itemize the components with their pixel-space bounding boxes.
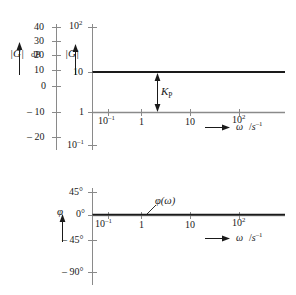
magnitude-log-axis: [88, 24, 97, 150]
db-axis: [52, 24, 61, 150]
phase-tick-minus-90: – 90°: [62, 267, 84, 277]
magnitude-x-tick-10: 10: [185, 117, 195, 127]
phase-x-tick-1: 1: [139, 220, 144, 230]
phase-curve-label: φ(ω): [155, 196, 175, 207]
kp-measurement-arrow: [155, 73, 161, 112]
phase-tick-minus-45: – 45°: [62, 235, 84, 245]
db-tick-10: 10: [34, 65, 44, 75]
phase-x-axis-unit: /s–1: [249, 233, 262, 243]
phase-x-tick-10: 10: [185, 220, 195, 230]
db-tick-0: 0: [41, 81, 46, 91]
db-tick-40: 40: [34, 22, 44, 32]
phase-y-axis: [88, 188, 97, 285]
magnitude-tick-10: 10: [73, 67, 83, 77]
db-tick-minus-10: – 10: [27, 107, 45, 117]
db-tick-30: 30: [34, 36, 44, 46]
magnitude-x-axis-arrow: [205, 125, 230, 131]
magnitude-axis-label: |G|: [65, 48, 79, 59]
magnitude-x-axis-variable: ω: [236, 122, 243, 132]
phase-x-tick-100: 102: [232, 218, 245, 228]
magnitude-x-tick-1: 1: [139, 117, 144, 127]
phase-tick-0: 0°: [76, 209, 85, 219]
kp-label-subscript: P: [168, 91, 172, 100]
magnitude-tick-1: 1: [79, 107, 84, 117]
magnitude-tick-100: 102: [69, 21, 82, 31]
magnitude-x-axis: [93, 109, 286, 116]
magnitude-tick-0-1: 10–1: [67, 140, 84, 150]
kp-label: KP: [161, 86, 173, 97]
figure-vector-layer: [0, 0, 296, 295]
phase-x-axis-arrow: [205, 236, 230, 242]
bode-plot-figure: |G| dB 40 30 20 10 0 – 10 – 20 |G| 102 1…: [0, 0, 296, 295]
db-tick-20: 20: [34, 50, 44, 60]
magnitude-x-axis-unit: /s–1: [249, 122, 262, 132]
phase-tick-45: 45°: [69, 187, 83, 197]
db-tick-minus-20: – 20: [27, 132, 45, 142]
magnitude-x-tick-0-1: 10–1: [98, 116, 115, 126]
phase-x-tick-0-1: 10–1: [95, 219, 112, 229]
phase-axis-label: φ: [57, 206, 63, 217]
phase-x-axis-variable: ω: [236, 233, 243, 243]
db-axis-label-g: |G|: [10, 48, 24, 59]
